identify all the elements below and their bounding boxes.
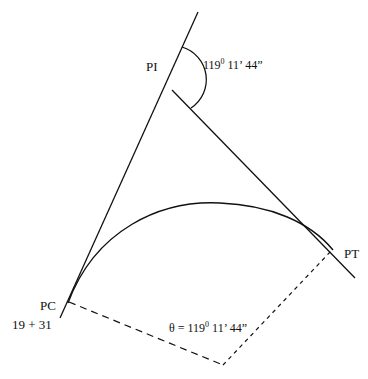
curve-diagram: PI 1190 11’ 44” PT PC 19 + 31 θ = 1190 1… [0,0,368,379]
forward-tangent-line [172,90,355,278]
back-tangent-line [60,12,198,318]
pi-label: PI [146,59,158,74]
deflection-angle-rest: 11’ 44” [225,58,263,72]
central-angle-label: θ = 1190 11’ 44” [169,320,247,335]
central-angle-degrees: 119 [188,321,206,335]
pt-label: PT [344,246,359,261]
deflection-angle-label: 1190 11’ 44” [203,57,263,72]
pc-label: PC [40,298,56,313]
deflection-angle-degrees: 119 [203,58,221,72]
central-angle-rest: 11’ 44” [209,321,247,335]
deflection-angle-arc [182,47,206,108]
radius-pt-dashed [223,250,332,365]
pc-station-label: 19 + 31 [12,317,52,332]
circular-curve-arc [68,203,333,303]
central-angle-prefix: θ = [169,321,188,335]
